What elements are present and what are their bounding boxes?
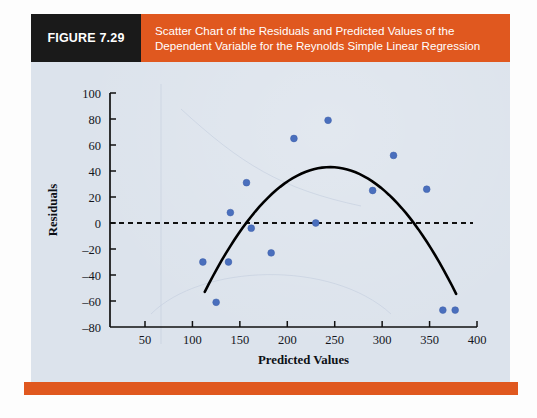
data-point (248, 225, 255, 232)
paper-ghost-marks (151, 84, 391, 344)
data-point (369, 187, 376, 194)
x-axis-title: Predicted Values (258, 353, 349, 367)
data-point (312, 220, 319, 227)
svg-text:400: 400 (468, 333, 487, 347)
data-point (225, 259, 232, 266)
data-points (199, 117, 458, 314)
svg-text:60: 60 (89, 139, 102, 153)
svg-text:–80: –80 (81, 321, 101, 335)
svg-text:40: 40 (89, 165, 102, 179)
y-axis-title: Residuals (46, 184, 60, 237)
svg-text:20: 20 (89, 191, 102, 205)
svg-text:150: 150 (230, 333, 249, 347)
svg-text:250: 250 (325, 333, 344, 347)
plot-axes: –80–60–40–20020406080100 501001502002503… (81, 87, 486, 348)
data-point (452, 307, 459, 314)
data-point (268, 250, 275, 257)
scatter-plot: –80–60–40–20020406080100 501001502002503… (31, 14, 510, 395)
svg-text:300: 300 (373, 333, 392, 347)
svg-text:100: 100 (183, 333, 202, 347)
data-point (227, 209, 234, 216)
scatter-plot-svg: –80–60–40–20020406080100 501001502002503… (31, 14, 510, 395)
svg-text:50: 50 (139, 333, 152, 347)
figure-root: FIGURE 7.29 Scatter Chart of the Residua… (0, 0, 537, 418)
data-point (325, 117, 332, 124)
data-point (243, 179, 250, 186)
svg-text:0: 0 (95, 217, 101, 231)
figure-bottom-rule (24, 382, 518, 395)
svg-text:–60: –60 (81, 295, 101, 309)
svg-text:80: 80 (89, 113, 102, 127)
svg-text:–40: –40 (81, 269, 101, 283)
data-point (439, 307, 446, 314)
svg-text:350: 350 (420, 333, 439, 347)
data-point (291, 135, 298, 142)
svg-text:–20: –20 (81, 243, 101, 257)
data-point (199, 259, 206, 266)
data-point (213, 299, 220, 306)
data-point (423, 186, 430, 193)
trend-curve (205, 167, 456, 294)
svg-text:200: 200 (278, 333, 297, 347)
data-point (390, 152, 397, 159)
svg-text:100: 100 (82, 87, 101, 101)
